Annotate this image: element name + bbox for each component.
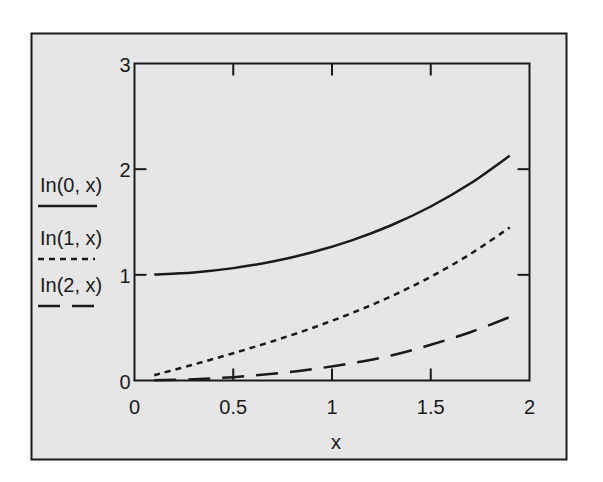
x-axis-label: x	[331, 431, 341, 453]
chart: 00.511.520123 In(0, x)In(1, x)In(2, x) x	[0, 0, 603, 482]
y-tick-label: 2	[119, 159, 130, 181]
legend-label-0: In(0, x)	[40, 174, 102, 196]
x-tick-label: 0	[129, 396, 140, 418]
y-tick-label: 1	[119, 265, 130, 287]
legend: In(0, x)In(1, x)In(2, x)	[38, 174, 102, 306]
x-tick-label: 0.5	[219, 396, 247, 418]
chart-frame	[32, 34, 567, 460]
legend-label-2: In(2, x)	[40, 274, 102, 296]
x-tick-label: 2	[524, 396, 535, 418]
y-tick-label: 3	[119, 54, 130, 76]
legend-label-1: In(1, x)	[40, 227, 102, 249]
x-tick-label: 1	[326, 396, 337, 418]
x-tick-label: 1.5	[417, 396, 445, 418]
y-tick-label: 0	[119, 371, 130, 393]
